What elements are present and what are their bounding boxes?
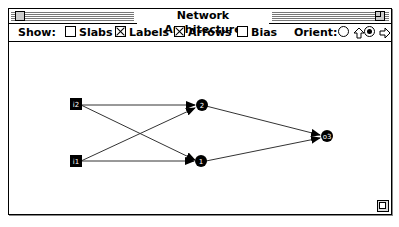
node-1[interactable]: 1 xyxy=(195,155,207,167)
bias-checkbox[interactable]: Bias xyxy=(237,24,277,41)
node-2[interactable]: 2 xyxy=(196,99,208,111)
node-1-label: 1 xyxy=(199,158,203,166)
network-canvas[interactable]: i2 i1 2 1 o3 xyxy=(9,42,391,214)
node-i2-label: i2 xyxy=(73,101,79,109)
edge-1-o3 xyxy=(206,138,320,161)
network-diagram: i2 i1 2 1 o3 xyxy=(9,42,391,214)
network-architecture-window: Network Architecture Show: Slabs Labels … xyxy=(8,8,392,215)
labels-checkbox-box[interactable] xyxy=(115,26,126,37)
edge-i1-2 xyxy=(81,108,195,161)
node-i1[interactable]: i1 xyxy=(70,155,82,167)
orient-right-option[interactable] xyxy=(364,24,391,41)
bias-label: Bias xyxy=(251,26,277,39)
node-2-label: 2 xyxy=(200,102,204,110)
orient-right-radio[interactable] xyxy=(364,26,375,37)
slabs-checkbox[interactable]: Slabs xyxy=(65,24,113,41)
orient-up-option[interactable] xyxy=(338,24,365,41)
node-o3[interactable]: o3 xyxy=(321,130,333,142)
title-bar[interactable]: Network Architecture xyxy=(9,9,391,24)
slabs-checkbox-box[interactable] xyxy=(65,26,76,37)
show-label: Show: xyxy=(18,24,56,41)
slabs-label: Slabs xyxy=(79,26,113,39)
node-i2[interactable]: i2 xyxy=(70,98,82,110)
edge-i2-1 xyxy=(81,105,195,160)
arrows-label: Arrows xyxy=(188,26,232,39)
arrows-checkbox[interactable]: Arrows xyxy=(174,24,232,41)
edge-2-o3 xyxy=(206,106,320,135)
grow-box-icon[interactable] xyxy=(377,200,389,212)
edges xyxy=(81,105,320,161)
orient-label: Orient: xyxy=(294,24,338,41)
zoom-box-icon[interactable] xyxy=(375,11,385,21)
close-box-icon[interactable] xyxy=(15,11,25,21)
node-i1-label: i1 xyxy=(73,158,79,166)
bias-checkbox-box[interactable] xyxy=(237,26,248,37)
labels-checkbox[interactable]: Labels xyxy=(115,24,169,41)
node-o3-label: o3 xyxy=(323,133,332,141)
arrow-right-icon xyxy=(379,27,391,39)
toolbar: Show: Slabs Labels Arrows Bias Orient: xyxy=(9,24,391,42)
orient-up-radio[interactable] xyxy=(338,26,349,37)
labels-label: Labels xyxy=(129,26,169,39)
arrows-checkbox-box[interactable] xyxy=(174,26,185,37)
title-stripes-left xyxy=(11,11,134,21)
title-stripes-right xyxy=(272,11,389,21)
